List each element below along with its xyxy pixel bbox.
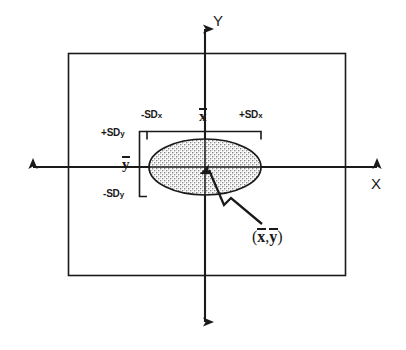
annotation-close-paren: ) xyxy=(277,228,282,245)
statistics-diagram: Y X -SDx +SDx x +SDy -SDy y (x,y) xyxy=(0,0,406,350)
sd-y-positive-subscript: y xyxy=(120,129,124,138)
y-mean-text: y xyxy=(122,156,130,172)
x-axis-label: X xyxy=(371,176,381,191)
sd-y-positive-label: +SDy xyxy=(101,128,124,138)
sd-y-bracket xyxy=(140,132,148,197)
x-mean-text: x xyxy=(199,108,207,124)
sd-x-positive-subscript: x xyxy=(258,111,262,120)
sd-x-negative-text: -SD xyxy=(141,109,158,120)
sd-y-negative-label: -SDy xyxy=(103,189,124,199)
mean-point-annotation: (x,y) xyxy=(252,228,283,245)
sd-y-positive-text: +SD xyxy=(101,127,120,138)
y-axis-label: Y xyxy=(213,13,223,28)
sd-x-positive-text: +SD xyxy=(239,109,258,120)
sd-x-negative-subscript: x xyxy=(158,111,162,120)
x-mean-label: x xyxy=(199,108,207,124)
sd-y-negative-text: -SD xyxy=(103,188,120,199)
sd-x-negative-label: -SDx xyxy=(141,110,162,120)
sd-y-negative-subscript: y xyxy=(120,190,124,199)
sd-x-positive-label: +SDx xyxy=(239,110,262,120)
diagram-canvas xyxy=(0,0,406,350)
annotation-x-mean: x xyxy=(257,228,265,245)
annotation-y-mean: y xyxy=(269,228,277,245)
y-mean-label: y xyxy=(122,156,130,172)
